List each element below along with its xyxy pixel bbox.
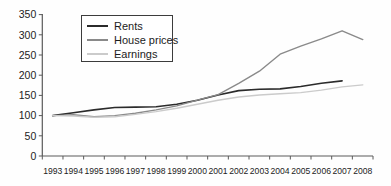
x-tick-label: 1994 xyxy=(64,166,83,176)
x-tick-label: 2005 xyxy=(291,166,310,176)
legend-item-house-prices: House prices xyxy=(87,33,172,47)
legend-label-house-prices: House prices xyxy=(114,33,178,47)
x-tick-label: 2008 xyxy=(353,166,372,176)
y-tick-label: 50 xyxy=(25,130,37,142)
legend-label-rents: Rents xyxy=(114,19,143,33)
y-tick-label: 250 xyxy=(19,49,37,61)
legend-item-earnings: Earnings xyxy=(87,47,172,61)
x-tick-label: 1997 xyxy=(126,166,145,176)
y-tick-label: 100 xyxy=(19,109,37,121)
earnings-line xyxy=(53,85,363,117)
earnings-line-swatch xyxy=(87,53,108,55)
x-tick-label: 2006 xyxy=(312,166,331,176)
rents-line xyxy=(53,81,342,116)
x-tick-label: 2007 xyxy=(333,166,352,176)
x-tick-label: 2002 xyxy=(229,166,248,176)
y-tick-label: 150 xyxy=(19,89,37,101)
line-chart-figure: 0501001502002503003501993199419951996199… xyxy=(0,0,391,186)
chart-canvas: 0501001502002503003501993199419951996199… xyxy=(0,0,391,186)
rents-line-swatch xyxy=(87,25,108,27)
x-tick-label: 2001 xyxy=(208,166,227,176)
x-tick-label: 1995 xyxy=(84,166,103,176)
y-tick-label: 0 xyxy=(30,150,36,162)
legend-label-earnings: Earnings xyxy=(114,47,157,61)
y-tick-label: 300 xyxy=(19,29,37,41)
x-tick-label: 1998 xyxy=(146,166,165,176)
x-tick-label: 1999 xyxy=(167,166,186,176)
legend-item-rents: Rents xyxy=(87,19,172,33)
x-tick-label: 2004 xyxy=(271,166,290,176)
x-tick-label: 1993 xyxy=(43,166,62,176)
y-tick-label: 350 xyxy=(19,8,37,20)
legend: Rents House prices Earnings xyxy=(81,15,173,62)
y-tick-label: 200 xyxy=(19,69,37,81)
house-prices-line-swatch xyxy=(87,39,108,41)
x-tick-label: 1996 xyxy=(105,166,124,176)
x-tick-label: 2000 xyxy=(188,166,207,176)
x-tick-label: 2003 xyxy=(250,166,269,176)
